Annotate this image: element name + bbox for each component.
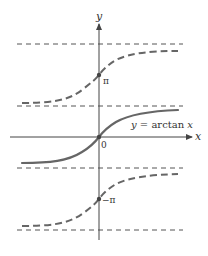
arctan-upper-branch — [22, 51, 178, 103]
x-axis-label: x — [195, 130, 202, 143]
pi-point — [97, 73, 101, 77]
pi-label: π — [103, 76, 109, 86]
y-axis-label: y — [95, 10, 103, 23]
arctan-diagram: y x 0 π −π y = arctan x — [0, 0, 208, 256]
neg-pi-point — [97, 197, 101, 201]
curve-label: y = arctan x — [130, 119, 193, 130]
origin-point — [97, 135, 101, 139]
curve-label-x: x — [187, 119, 193, 130]
neg-pi-label: −π — [102, 195, 116, 205]
origin-label: 0 — [101, 140, 107, 150]
curve-label-func: = arctan — [137, 119, 188, 130]
